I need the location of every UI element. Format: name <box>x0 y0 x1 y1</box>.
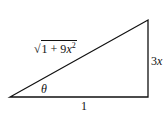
triangle-outline <box>10 20 148 97</box>
opposite-var: x <box>157 54 162 68</box>
triangle <box>0 0 167 114</box>
radicand: 1 + 9x2 <box>41 40 77 55</box>
angle-label: θ <box>41 83 47 95</box>
radicand-lead: 1 + 9 <box>42 42 67 56</box>
adjacent-label: 1 <box>81 100 87 112</box>
hypotenuse-label: √1 + 9x2 <box>34 40 77 55</box>
sqrt-sign: √ <box>34 42 41 56</box>
radicand-exp: 2 <box>72 41 76 50</box>
opposite-label: 3x <box>151 55 162 67</box>
